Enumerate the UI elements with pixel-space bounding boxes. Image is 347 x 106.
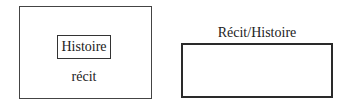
recit-histoire-label: Récit/Histoire <box>181 25 333 41</box>
histoire-inner-box: Histoire <box>57 35 111 59</box>
histoire-label: Histoire <box>61 39 106 55</box>
recit-histoire-box <box>181 43 333 98</box>
recit-label: récit <box>60 69 108 85</box>
